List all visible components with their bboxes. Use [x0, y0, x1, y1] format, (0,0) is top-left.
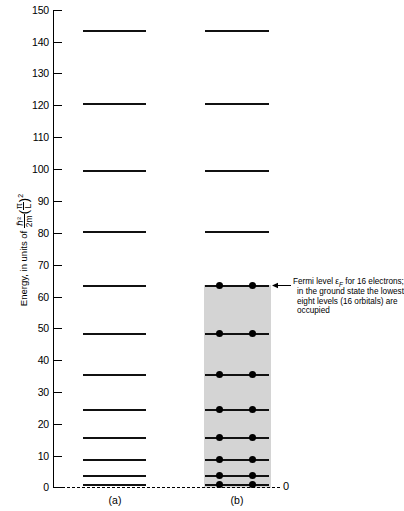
- level-b-64-fermi: [205, 285, 269, 287]
- electron-dot-25-right: [249, 406, 256, 413]
- level-a-49: [83, 333, 146, 335]
- y-tick-120: [53, 105, 62, 106]
- electron-dot-36-right: [249, 371, 256, 378]
- y-axis-title-exponent: 2: [16, 194, 23, 198]
- electron-dot-16-left: [216, 434, 223, 441]
- y-axis-title-fraction: ℏ² 2m: [16, 214, 33, 228]
- y-tick-80: [53, 233, 62, 234]
- level-b-9: [205, 459, 269, 461]
- y-tick-90: [53, 201, 62, 202]
- electron-dot-49-right: [249, 330, 256, 337]
- level-b-36: [205, 374, 269, 376]
- y-tick-label-10: 10: [23, 451, 49, 462]
- y-axis-title-prefix: Energy, in units of: [18, 231, 29, 306]
- fermi-annotation-line-1: Fermi level εF for 16 electrons;: [293, 277, 387, 287]
- level-b-100: [205, 170, 269, 172]
- level-b-4: [205, 475, 269, 477]
- electron-dot-25-left: [216, 406, 223, 413]
- y-tick-label-0: 0: [23, 482, 49, 493]
- electron-dot-49-left: [216, 330, 223, 337]
- fermi-level-annotation: Fermi level εF for 16 electrons; in the …: [293, 277, 387, 316]
- electron-dot-9-left: [216, 456, 223, 463]
- fermi-annotation-line-2: in the ground state the lowest: [293, 287, 387, 297]
- level-a-100: [83, 170, 146, 172]
- y-axis-title-paren-fraction: πL: [15, 202, 32, 210]
- y-tick-label-150: 150: [23, 5, 49, 16]
- y-axis-line: [53, 10, 54, 488]
- level-b-121: [205, 103, 269, 105]
- y-tick-110: [53, 137, 62, 138]
- level-b-49: [205, 333, 269, 335]
- level-a-9: [83, 459, 146, 461]
- level-a-4: [83, 475, 146, 477]
- y-tick-150: [53, 10, 62, 11]
- fermi-annotation-line-3: eight levels (16 orbitals) are: [293, 297, 387, 307]
- y-tick-label-120: 120: [23, 100, 49, 111]
- y-axis-title-paren-den: L: [24, 202, 32, 210]
- fermi-annotation-line-4: occupied: [293, 306, 387, 316]
- electron-dot-64-left: [216, 282, 223, 289]
- fermi-annotation-line1-rest: for 16 electrons;: [343, 277, 404, 286]
- level-a-16: [83, 437, 146, 439]
- electron-dot-16-right: [249, 434, 256, 441]
- level-a-1: [83, 484, 146, 486]
- y-tick-label-20: 20: [23, 419, 49, 430]
- column-caption-a: (a): [100, 495, 130, 506]
- y-tick-140: [53, 42, 62, 43]
- level-a-144: [83, 30, 146, 32]
- y-tick-label-130: 130: [23, 68, 49, 79]
- level-b-81: [205, 231, 269, 233]
- zero-baseline-label: 0: [283, 481, 289, 492]
- electron-dot-9-right: [249, 456, 256, 463]
- y-axis-title-denominator: 2m: [25, 214, 33, 228]
- y-tick-30: [53, 392, 62, 393]
- left-arrow-icon: [272, 281, 292, 290]
- level-a-81: [83, 231, 146, 233]
- level-a-64: [83, 285, 146, 287]
- y-tick-20: [53, 424, 62, 425]
- level-a-25: [83, 409, 146, 411]
- y-axis-title: Energy, in units of ℏ² 2m (πL)2: [16, 160, 32, 340]
- y-tick-label-140: 140: [23, 37, 49, 48]
- level-b-144: [205, 30, 269, 32]
- y-tick-10: [53, 456, 62, 457]
- zero-baseline: [57, 487, 280, 488]
- y-tick-label-40: 40: [23, 355, 49, 366]
- level-b-25: [205, 409, 269, 411]
- y-tick-label-30: 30: [23, 387, 49, 398]
- y-axis-title-paren: (πL)2: [16, 194, 33, 214]
- electron-dot-4-right: [249, 472, 256, 479]
- level-a-36: [83, 374, 146, 376]
- y-tick-130: [53, 73, 62, 74]
- fermi-annotation-line1-text: Fermi level ε: [293, 277, 339, 286]
- y-tick-70: [53, 265, 62, 266]
- y-tick-40: [53, 360, 62, 361]
- electron-dot-64-right: [249, 282, 256, 289]
- y-tick-50: [53, 328, 62, 329]
- electron-dot-36-left: [216, 371, 223, 378]
- level-a-121: [83, 103, 146, 105]
- electron-dot-4-left: [216, 472, 223, 479]
- occupied-band-shading: [204, 285, 271, 488]
- y-tick-60: [53, 297, 62, 298]
- y-tick-label-110: 110: [23, 132, 49, 143]
- level-b-16: [205, 437, 269, 439]
- column-caption-b: (b): [222, 495, 252, 506]
- y-tick-100: [53, 169, 62, 170]
- level-b-1: [205, 484, 269, 486]
